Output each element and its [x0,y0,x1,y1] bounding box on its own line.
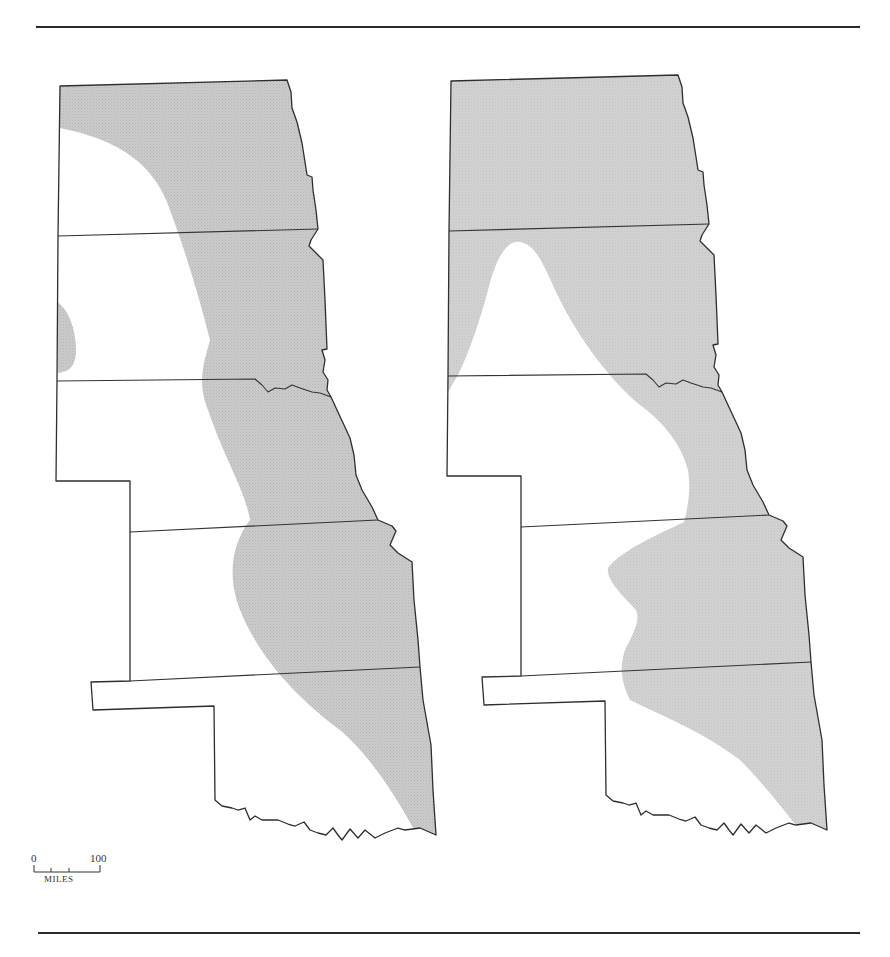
right-shaded-region [430,55,860,860]
left-shaded-patch [57,302,76,373]
right-map-panel [430,55,860,860]
scale-bar: 0 100 MILES [31,852,141,902]
map-figure [0,0,890,957]
left-shaded-region [40,60,460,860]
scale-unit-label: MILES [44,874,74,884]
left-map-panel [40,60,460,860]
